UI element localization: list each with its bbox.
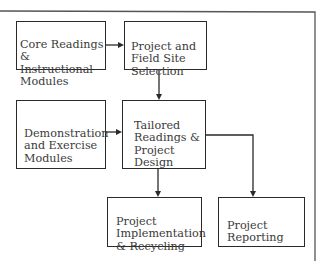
node-label: Demonstration and Exercise Modules bbox=[24, 128, 105, 166]
node-reporting: Project Reporting bbox=[218, 197, 305, 247]
node-demo-modules: Demonstration and Exercise Modules bbox=[16, 100, 106, 169]
node-site-selection: Project and Field Site Selection bbox=[124, 21, 207, 70]
node-label: Project Reporting bbox=[227, 220, 304, 245]
node-tailored-readings: Tailored Readings & Project Design bbox=[122, 100, 206, 169]
edge-tailored-to-reporting bbox=[206, 135, 253, 192]
node-core-readings: Core Readings & Instructional Modules bbox=[16, 21, 106, 70]
node-label: Tailored Readings & Project Design bbox=[134, 120, 205, 170]
node-label: Core Readings & Instructional Modules bbox=[20, 39, 105, 89]
node-label: Project Implementation & Recycling bbox=[116, 216, 201, 254]
node-implementation: Project Implementation & Recycling bbox=[107, 197, 202, 247]
node-label: Project and Field Site Selection bbox=[131, 41, 206, 79]
